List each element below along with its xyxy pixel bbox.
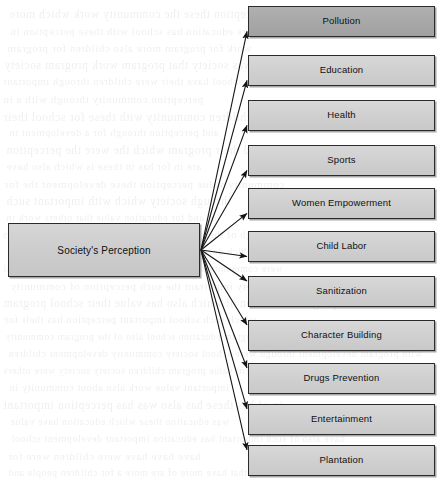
connector-to-character-building xyxy=(201,250,247,325)
node-leaf-label: Health xyxy=(327,110,355,120)
connector-to-sanitization xyxy=(201,250,247,281)
connector-to-plantation xyxy=(201,250,247,450)
node-leaf-label: Sports xyxy=(327,155,355,165)
node-leaf-plantation[interactable]: Plantation xyxy=(248,445,435,476)
node-root-label: Society's Perception xyxy=(57,245,150,256)
diagram-canvas: also program these was perception these … xyxy=(0,0,447,480)
node-leaf-entertainment[interactable]: Entertainment xyxy=(248,404,435,435)
connector-to-education xyxy=(201,80,247,250)
node-leaf-label: Sanitization xyxy=(316,286,367,296)
node-leaf-sanitization[interactable]: Sanitization xyxy=(248,276,435,307)
node-leaf-label: Women Empowerment xyxy=(292,198,391,208)
node-leaf-drugs-prevention[interactable]: Drugs Prevention xyxy=(248,363,435,394)
node-leaf-label: Drugs Prevention xyxy=(304,373,380,383)
node-leaf-label: Plantation xyxy=(320,455,364,465)
connector-to-pollution xyxy=(201,31,247,250)
node-leaf-sports[interactable]: Sports xyxy=(248,145,435,176)
node-leaf-label: Education xyxy=(320,65,364,75)
node-leaf-label: Entertainment xyxy=(311,414,372,424)
node-leaf-women-empowerment[interactable]: Women Empowerment xyxy=(248,188,435,219)
node-leaf-character-building[interactable]: Character Building xyxy=(248,320,435,351)
connector-to-health xyxy=(201,125,247,250)
connector-to-entertainment xyxy=(201,250,247,409)
node-leaf-child-labor[interactable]: Child Labor xyxy=(248,231,435,262)
node-leaf-label: Character Building xyxy=(301,330,382,340)
node-leaf-health[interactable]: Health xyxy=(248,100,435,131)
node-leaf-label: Child Labor xyxy=(316,241,366,251)
node-leaf-label: Pollution xyxy=(323,16,361,26)
node-leaf-education[interactable]: Education xyxy=(248,55,435,86)
connector-to-women-empowerment xyxy=(201,213,247,250)
connector-to-drugs-prevention xyxy=(201,250,247,368)
node-leaf-pollution[interactable]: Pollution xyxy=(248,6,435,37)
connector-to-sports xyxy=(201,170,247,250)
connector-to-child-labor xyxy=(201,250,247,256)
node-root[interactable]: Society's Perception xyxy=(8,223,200,277)
connector-lines xyxy=(201,31,247,450)
